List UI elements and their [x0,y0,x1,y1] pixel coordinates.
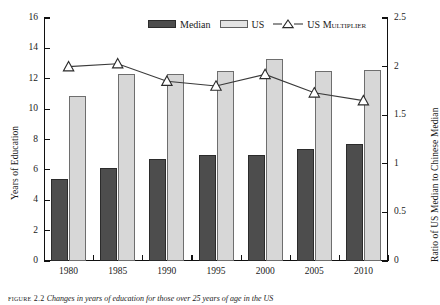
bar-us [315,71,332,261]
y-axis-left-tick-mark [44,139,50,140]
y-axis-left-tick-mark [44,78,50,79]
x-axis-tick-mark [191,255,192,261]
figure-caption-label: figure 2.2 [8,294,45,303]
legend-label-median: Median [180,19,211,30]
chart-legend: Median US US Multiplier [148,16,366,32]
y-axis-left-tick-mark [44,200,50,201]
bar-median [51,179,68,261]
bar-median [248,155,265,261]
legend-item-us-multiplier[interactable]: US Multiplier [273,19,366,30]
x-axis-tick-mark [388,255,389,261]
y-axis-left-ticks: 0246810121416 [0,0,38,305]
x-axis-tick-label: 1995 [207,266,226,276]
y-axis-left-tick-mark [44,109,50,110]
y-axis-left-tick-label: 2 [33,226,38,236]
y-axis-left-tick-label: 8 [33,135,38,145]
y-axis-right-tick-mark [382,66,388,67]
legend-label-us-multiplier: US Multiplier [307,19,366,30]
bar-median [199,155,216,261]
median-bar-swatch-icon [148,20,176,28]
y-axis-left-tick-mark [44,48,50,49]
bar-us [217,71,234,261]
line-triangle-marker-icon [273,19,303,29]
y-axis-left-tick-label: 6 [33,165,38,175]
y-axis-right-tick-label: 2.5 [394,13,406,23]
x-axis-tick-label: 1990 [157,266,176,276]
bar-median [149,159,166,261]
x-axis-tick-label: 2005 [305,266,324,276]
y-axis-left-tick-label: 4 [33,195,38,205]
x-axis-tick-label: 2000 [256,266,275,276]
y-axis-right-tick-mark [382,115,388,116]
bar-median [297,149,314,261]
x-axis-tick-mark [241,255,242,261]
bar-us [69,96,86,261]
x-axis-tick-label: 1980 [59,266,78,276]
y-axis-right-ticks: 00.511.522.5 [394,0,434,305]
x-axis-tick-label: 1985 [108,266,127,276]
legend-label-us: US [252,19,265,30]
figure-caption: figure 2.2 Changes in years of education… [8,294,432,304]
y-axis-right-tick-label: 1.5 [394,110,406,120]
bar-us [364,70,381,261]
y-axis-left-tick-label: 16 [29,13,39,23]
y-axis-left-tick-label: 14 [29,43,39,53]
bar-median [100,168,117,261]
y-axis-right-tick-mark [382,212,388,213]
y-axis-left-tick-label: 0 [33,256,38,266]
x-axis-tick-mark [142,255,143,261]
y-axis-right-tick-mark [382,17,388,18]
legend-item-median[interactable]: Median [148,19,211,30]
figure-caption-text: Changes in years of education for those … [47,294,274,303]
x-axis-tick-mark [290,255,291,261]
bar-us [118,74,135,261]
y-axis-right-tick-label: 0.5 [394,207,406,217]
legend-item-us[interactable]: US [220,19,265,30]
x-axis-tick-label: 2010 [354,266,373,276]
us-bar-swatch-icon [220,20,248,28]
y-axis-right-tick-label: 2 [394,62,399,72]
y-axis-right-tick-label: 0 [394,256,399,266]
y-axis-left-tick-mark [44,230,50,231]
y-axis-left-tick-label: 12 [29,74,39,84]
bar-us [266,59,283,261]
x-axis-tick-mark [339,255,340,261]
x-axis-tick-mark [93,255,94,261]
y-axis-left-tick-label: 10 [29,104,39,114]
x-axis-tick-mark [44,255,45,261]
bar-us [167,74,184,261]
y-axis-left-tick-mark [44,17,50,18]
y-axis-right-tick-label: 1 [394,159,399,169]
bar-median [346,144,363,261]
y-axis-right-tick-mark [382,163,388,164]
y-axis-left-tick-mark [44,169,50,170]
